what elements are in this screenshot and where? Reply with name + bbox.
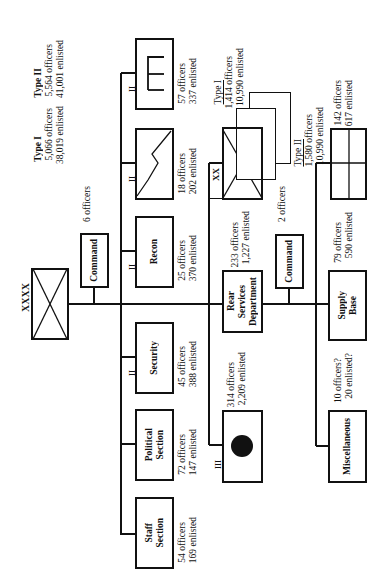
type-i-enlisted: 38,019 enlisted bbox=[55, 106, 66, 164]
political-section-box[interactable]: Political Section bbox=[135, 409, 174, 481]
security-label: Security bbox=[149, 341, 160, 375]
signal-enlisted: 202 enlisted bbox=[188, 148, 199, 194]
recon-label: Recon bbox=[149, 239, 160, 264]
recon-echelon-mark: II bbox=[128, 264, 137, 270]
supply-base-label-line1: Supply bbox=[337, 291, 348, 320]
type-i-officers: 5,066 officers bbox=[44, 108, 55, 161]
rear-command-strength: 2 officers bbox=[277, 186, 288, 222]
hq-command-box[interactable]: Command bbox=[80, 233, 109, 288]
division-type-ii-officers: 1,580 officers bbox=[304, 114, 315, 167]
division-type-i-officers: 1,414 officers bbox=[224, 56, 235, 109]
rear-services-label-line2: Services bbox=[237, 285, 248, 318]
signal-echelon-mark: II bbox=[128, 176, 137, 182]
political-enlisted: 147 enlisted bbox=[188, 429, 199, 475]
division-box[interactable] bbox=[222, 127, 263, 200]
supply-base-officers: 79 officers bbox=[333, 222, 344, 263]
political-officers: 72 officers bbox=[177, 434, 188, 475]
staff-label-line1: Staff bbox=[144, 523, 155, 543]
type-i-totals: Type I 5,066 officers 38,019 enlisted bbox=[33, 108, 69, 178]
miscellaneous-label: Miscellaneous bbox=[342, 418, 353, 475]
supply-base-label-line2: Base bbox=[348, 296, 359, 315]
type-ii-label: Type II bbox=[33, 68, 44, 98]
rear-services-label-line1: Rear bbox=[226, 291, 237, 311]
medical-unit-box[interactable] bbox=[222, 410, 263, 483]
division-type-i-label: Type I bbox=[213, 80, 224, 104]
hq-command-strength: 6 officers bbox=[82, 186, 93, 222]
hq-command-label: Command bbox=[89, 239, 100, 282]
supply-base-enlisted: 590 enlisted bbox=[344, 212, 355, 258]
staff-label-line2: Section bbox=[155, 518, 166, 548]
hq-army-symbol[interactable] bbox=[31, 268, 69, 340]
miscellaneous-box[interactable]: Miscellaneous bbox=[328, 410, 367, 483]
type-ii-totals: Type II 5,564 officers 41,001 enlisted bbox=[33, 40, 69, 110]
hq-echelon-label: XXXX bbox=[20, 283, 31, 312]
medical-enlisted: 2,209 enlisted bbox=[237, 352, 248, 405]
security-officers: 45 officers bbox=[177, 346, 188, 387]
rear-services-label-line3: Department bbox=[248, 277, 259, 326]
division-type-i-enlisted: 10,990 enlisted bbox=[235, 48, 246, 106]
engineer-echelon-mark: II bbox=[128, 86, 137, 92]
political-label-line2: Section bbox=[155, 430, 166, 460]
quartermaster-unit-box[interactable] bbox=[330, 128, 367, 200]
division-echelon-label: XX bbox=[211, 168, 222, 181]
security-unit-box[interactable]: Security bbox=[135, 322, 174, 394]
security-echelon-mark: II bbox=[128, 370, 137, 376]
medical-echelon-mark: III bbox=[214, 460, 223, 469]
rear-command-label: Command bbox=[284, 240, 295, 283]
type-ii-enlisted: 41,001 enlisted bbox=[55, 40, 66, 98]
division-type-ii-enlisted: 10,990 enlisted bbox=[315, 107, 326, 165]
signal-unit-box[interactable] bbox=[135, 128, 174, 200]
quartermaster-officers: 142 officers bbox=[333, 80, 344, 125]
medical-officers: 314 officers bbox=[226, 362, 237, 407]
engineer-unit-box[interactable] bbox=[135, 38, 174, 110]
type-ii-officers: 5,564 officers bbox=[44, 44, 55, 97]
rear-services-enlisted: 1,227 enlisted bbox=[241, 211, 252, 264]
rear-services-department-box[interactable]: Rear Services Department bbox=[222, 270, 263, 333]
political-label-line1: Political bbox=[144, 428, 155, 461]
type-i-label: Type I bbox=[33, 136, 44, 162]
recon-unit-box[interactable]: Recon bbox=[135, 216, 174, 288]
signal-officers: 18 officers bbox=[177, 153, 188, 194]
rear-services-officers: 233 officers bbox=[230, 222, 241, 267]
recon-enlisted: 370 enlisted bbox=[188, 235, 199, 281]
quartermaster-enlisted: 617 enlisted bbox=[344, 80, 355, 126]
miscellaneous-enlisted: 20 enlisted? bbox=[344, 353, 355, 399]
recon-officers: 25 officers bbox=[177, 240, 188, 281]
staff-enlisted: 169 enlisted bbox=[188, 517, 199, 563]
miscellaneous-officers: 10 officers? bbox=[333, 358, 344, 403]
engineer-officers: 57 officers bbox=[177, 63, 188, 104]
division-type-ii-label: Type II bbox=[293, 139, 304, 167]
engineer-enlisted: 337 enlisted bbox=[188, 58, 199, 104]
staff-section-box[interactable]: Staff Section bbox=[135, 497, 174, 569]
rear-command-box[interactable]: Command bbox=[275, 234, 304, 289]
staff-officers: 54 officers bbox=[177, 522, 188, 563]
security-enlisted: 388 enlisted bbox=[188, 341, 199, 387]
supply-base-box[interactable]: Supply Base bbox=[328, 270, 367, 341]
